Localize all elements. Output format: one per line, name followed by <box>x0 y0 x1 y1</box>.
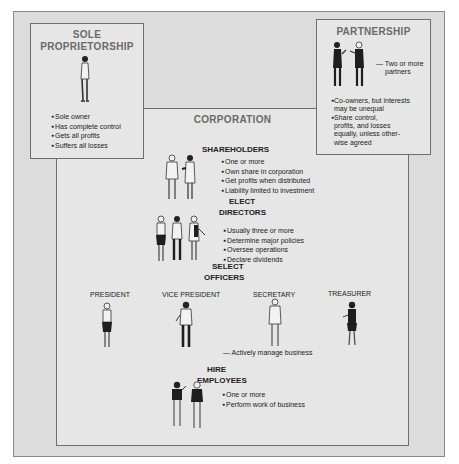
shareholders-bullet: Own share in corporation <box>221 167 314 177</box>
sole-bullets: Sole owner Has complete control Gets all… <box>51 112 121 150</box>
sole-title-line2: PROPRIETORSHIP <box>31 41 143 53</box>
partners-figure-icon <box>329 40 369 90</box>
directors-bullets: Usually three or more Determine major po… <box>223 226 304 264</box>
shareholders-heading: SHAREHOLDERS <box>202 144 269 155</box>
shareholders-bullet: Get profits when distributed <box>221 176 314 186</box>
sole-proprietorship-box: SOLE PROPRIETORSHIP Sole owner Has compl… <box>30 23 144 159</box>
partnership-bullet-2-cont: profits, and losses <box>334 122 390 131</box>
role-vice-president: VICE PRESIDENT <box>162 291 220 298</box>
vice-president-figure-icon <box>175 301 197 351</box>
partnership-bullet-2-cont: equally, unless other- <box>334 130 400 139</box>
officers-heading: OFFICERS <box>204 272 244 283</box>
employees-bullet: Perform work of business <box>222 400 305 410</box>
elect-label: ELECT <box>229 196 255 207</box>
secretary-figure-icon <box>265 298 285 350</box>
shareholders-bullets: One or more Own share in corporation Get… <box>221 157 314 195</box>
treasurer-figure-icon <box>341 301 361 349</box>
partnership-bullet-text: Co-owners, but interests <box>334 97 410 104</box>
partnership-bullet-2-cont: wise agreed <box>334 139 372 148</box>
partnership-bullet-text: Share control, <box>334 114 378 121</box>
role-treasurer: TREASURER <box>328 290 371 297</box>
directors-figure-icon <box>153 215 211 267</box>
employees-bullets: One or more Perform work of business <box>222 390 305 409</box>
sole-bullet: Sole owner <box>51 112 121 122</box>
directors-heading: DIRECTORS <box>219 207 266 218</box>
sole-bullet: Suffers all losses <box>51 141 121 151</box>
directors-bullet: Determine major policies <box>223 236 304 246</box>
role-president: PRESIDENT <box>90 291 130 298</box>
hire-label: HIRE <box>207 364 226 375</box>
partnership-title: PARTNERSHIP <box>317 26 430 37</box>
employees-bullet: One or more <box>222 390 305 400</box>
president-figure-icon <box>97 302 117 350</box>
partnership-bullet-1-cont: may be unequal <box>334 105 384 114</box>
shareholders-bullet: Liability limited to investment <box>221 186 314 196</box>
partnership-box: PARTNERSHIP — Two or more partners ●Co-o… <box>316 19 431 155</box>
shareholders-bullet: One or more <box>221 157 314 167</box>
employees-figure-icon <box>167 380 211 434</box>
shareholders-figure-icon <box>162 153 202 205</box>
sole-bullet: Has complete control <box>51 122 121 132</box>
role-secretary: SECRETARY <box>253 291 295 298</box>
partnership-note-line2: partners <box>385 68 411 77</box>
officers-note: — Actively manage business <box>223 349 313 358</box>
sole-bullet: Gets all profits <box>51 131 121 141</box>
sole-owner-figure-icon <box>78 55 92 103</box>
directors-bullet: Oversee operations <box>223 245 304 255</box>
select-label: SELECT <box>212 261 244 272</box>
directors-bullet: Usually three or more <box>223 226 304 236</box>
sole-title-line1: SOLE <box>31 29 143 41</box>
